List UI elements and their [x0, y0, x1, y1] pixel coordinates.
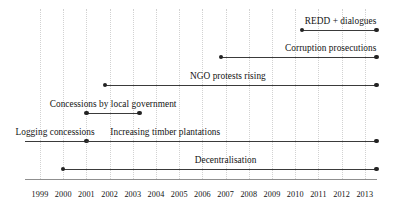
gridline-2009: [272, 9, 273, 179]
gridline-2003: [133, 9, 134, 179]
task-bar-line: [63, 169, 376, 170]
gridline-2008: [249, 9, 250, 179]
tick-label-2006: 2006: [194, 190, 211, 199]
tick-label-2010: 2010: [287, 190, 304, 199]
task-bar-line: [221, 57, 376, 58]
task-label: Logging concessions: [15, 127, 94, 137]
gridline-2000: [63, 9, 64, 179]
task-end-marker: [374, 167, 379, 172]
timeline-chart: REDD + dialoguesCorruption prosecutionsN…: [0, 0, 393, 209]
gridline-2007: [226, 9, 227, 179]
task-label: Increasing timber plantations: [110, 127, 220, 137]
task-label: REDD + dialogues: [305, 16, 377, 26]
gridline-2002: [110, 9, 111, 179]
gridline-2013: [365, 9, 366, 179]
gridline-2012: [342, 9, 343, 179]
task-start-marker: [84, 111, 89, 116]
tick-label-2008: 2008: [240, 190, 257, 199]
tick-label-2009: 2009: [264, 190, 281, 199]
tick-label-2007: 2007: [217, 190, 234, 199]
tick-label-2011: 2011: [310, 190, 326, 199]
task-label: Concessions by local government: [50, 99, 177, 109]
tick-label-2005: 2005: [171, 190, 188, 199]
task-start-marker: [61, 167, 66, 172]
tick-label-2001: 2001: [78, 190, 95, 199]
gridline-2004: [156, 9, 157, 179]
gridline-2010: [295, 9, 296, 179]
gridline-1999: [40, 9, 41, 179]
task-end-marker: [374, 55, 379, 60]
task-end-marker: [137, 111, 142, 116]
tick-label-2004: 2004: [148, 190, 165, 199]
task-end-marker: [374, 28, 379, 33]
tick-label-2013: 2013: [356, 190, 373, 199]
task-start-marker: [219, 55, 224, 60]
tick-label-2012: 2012: [333, 190, 350, 199]
task-start-marker: [300, 28, 305, 33]
tick-label-2000: 2000: [55, 190, 72, 199]
task-bar-line: [25, 141, 86, 142]
gridline-2005: [179, 9, 180, 179]
task-bar-line: [105, 85, 376, 86]
task-start-marker: [103, 83, 108, 88]
task-label: NGO protests rising: [190, 71, 266, 81]
tick-label-1999: 1999: [32, 190, 49, 199]
task-bar-line: [86, 113, 139, 114]
gridline-2006: [202, 9, 203, 179]
x-axis-line: [25, 179, 377, 180]
gridline-2001: [86, 9, 87, 179]
plot-area: REDD + dialoguesCorruption prosecutionsN…: [0, 0, 393, 209]
gridline-2011: [318, 9, 319, 179]
task-label: Corruption prosecutions: [285, 43, 376, 53]
task-bar-line: [86, 141, 376, 142]
task-label: Decentralisation: [195, 155, 257, 165]
task-end-marker: [374, 83, 379, 88]
task-end-marker: [374, 139, 379, 144]
tick-label-2002: 2002: [101, 190, 118, 199]
tick-label-2003: 2003: [124, 190, 141, 199]
task-bar-line: [302, 30, 376, 31]
